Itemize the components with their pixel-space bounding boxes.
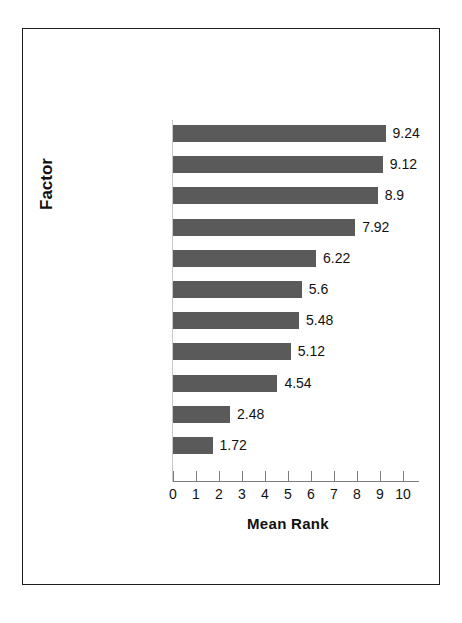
x-tick (357, 471, 358, 482)
x-tick (311, 471, 312, 482)
bar (173, 187, 378, 204)
x-tick (242, 471, 243, 482)
zero-baseline (172, 120, 173, 482)
x-axis-title: Mean Rank (173, 515, 403, 532)
bar (173, 219, 355, 236)
bar (173, 125, 386, 142)
x-tick (380, 471, 381, 482)
bar-value-label: 6.22 (323, 250, 350, 267)
x-tick (334, 471, 335, 482)
bar (173, 406, 230, 423)
bar (173, 375, 277, 392)
bar-value-label: 7.92 (362, 219, 389, 236)
bar-value-label: 9.12 (390, 156, 417, 173)
bar (173, 312, 299, 329)
bar (173, 343, 291, 360)
x-tick (265, 471, 266, 482)
y-axis-title: Factor (37, 90, 59, 210)
bar-value-label: 5.6 (309, 281, 328, 298)
bar-value-label: 5.48 (306, 312, 333, 329)
bar-value-label: 4.54 (284, 375, 311, 392)
bar-value-label: 1.72 (220, 437, 247, 454)
x-tick (403, 471, 404, 482)
plot-area: Factor Prosecutor Input9.24Inmate Demean… (0, 0, 462, 623)
x-tick-label: 10 (388, 486, 418, 502)
x-tick (288, 471, 289, 482)
bar (173, 250, 316, 267)
x-axis-line (173, 481, 419, 482)
bar (173, 281, 302, 298)
bar-value-label: 2.48 (237, 406, 264, 423)
x-tick (219, 471, 220, 482)
x-tick (173, 471, 174, 482)
chart-figure: Factor Prosecutor Input9.24Inmate Demean… (0, 0, 462, 623)
bar-value-label: 5.12 (298, 343, 325, 360)
bar (173, 437, 213, 454)
bar-value-label: 8.9 (385, 187, 404, 204)
x-tick (196, 471, 197, 482)
bar-value-label: 9.24 (393, 125, 420, 142)
bar (173, 156, 383, 173)
